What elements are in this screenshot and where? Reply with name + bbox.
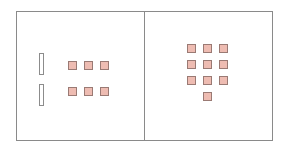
slot-rectangle xyxy=(39,84,44,106)
pink-square xyxy=(203,76,212,85)
pink-square xyxy=(100,87,109,96)
pink-square xyxy=(203,44,212,53)
left-panel xyxy=(16,11,145,141)
pink-square xyxy=(203,92,212,101)
pink-square xyxy=(84,87,93,96)
pink-square xyxy=(219,76,228,85)
pink-square xyxy=(219,44,228,53)
pink-square xyxy=(187,60,196,69)
slot-rectangle xyxy=(39,53,44,75)
pink-square xyxy=(187,44,196,53)
pink-square xyxy=(68,61,77,70)
pink-square xyxy=(187,76,196,85)
pink-square xyxy=(68,87,77,96)
pink-square xyxy=(100,61,109,70)
pink-square xyxy=(84,61,93,70)
pink-square xyxy=(219,60,228,69)
pink-square xyxy=(203,60,212,69)
